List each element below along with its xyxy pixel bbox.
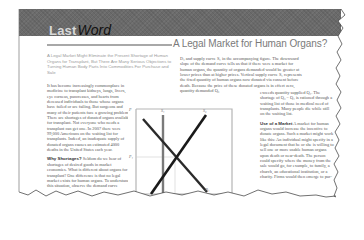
x-tick-q3: Q₃: [197, 196, 201, 201]
s2-label: S₂: [203, 108, 206, 113]
title-rule: [47, 44, 172, 46]
x-tick-q2: Q₂: [173, 196, 177, 201]
article-title: A Legal Market for Human Organs?: [173, 38, 327, 49]
section-heading-use-of-market: Use of a Market: [260, 121, 292, 126]
paragraph: D₁ and supply curve S₁ in the accompanyi…: [180, 56, 305, 93]
paragraph: It has become increasingly commonplace i…: [47, 83, 131, 152]
x-tick-q1: Q₁: [161, 196, 165, 201]
text-column-1: It has become increasingly commonplace i…: [47, 83, 131, 193]
logo-word: Word: [78, 22, 111, 38]
logo-last: Last: [49, 23, 77, 38]
s1-label: S₁: [161, 108, 164, 113]
paragraph: Why Shortages? Seldom do we hear of shor…: [47, 156, 131, 188]
x-axis-label: Q: [225, 196, 228, 201]
supply-demand-chart: [128, 105, 236, 203]
text-column-3: exceeds quantity supplied Q₁. The shorta…: [260, 90, 334, 184]
y-tick-p0: P₀: [130, 192, 134, 197]
d1-label: D₁: [205, 187, 209, 192]
y-axis-label: P: [129, 107, 131, 112]
paragraph-text: Seldom do we hear of shortages of desire…: [47, 156, 129, 188]
article-subtitle: A Legal Market Might Eliminate the Prese…: [47, 53, 175, 75]
paragraph: exceeds quantity supplied Q₁. The shorta…: [260, 90, 334, 117]
section-heading-why-shortages: Why Shortages?: [47, 156, 82, 161]
paragraph: Use of a Market A market for human organ…: [260, 121, 334, 180]
last-word-logo: LastWord: [49, 21, 111, 35]
y-tick-p1: P₁: [129, 154, 133, 159]
paragraph-text: A market for human organs would increase…: [260, 121, 334, 179]
